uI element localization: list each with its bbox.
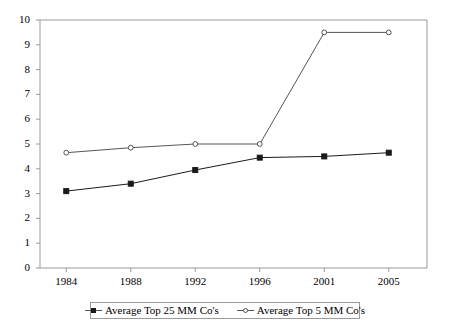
data-point-marker — [257, 142, 262, 147]
data-point-marker — [193, 142, 198, 147]
x-axis-tick-label: 1984 — [42, 276, 90, 287]
data-point-marker — [257, 155, 262, 160]
data-point-marker — [64, 150, 69, 155]
legend-marker-open-circle-icon — [237, 306, 254, 315]
y-axis-tick-label: 7 — [4, 88, 30, 99]
data-point-marker — [322, 30, 327, 35]
x-axis-tick-label: 1996 — [236, 276, 284, 287]
data-point-marker — [386, 150, 391, 155]
y-axis-tick-label: 0 — [4, 262, 30, 273]
data-point-marker — [322, 154, 327, 159]
legend-item-top-25: Average Top 25 MM Co's — [85, 305, 219, 316]
line-chart: 012345678910 198419881992199620012005 Av… — [0, 0, 451, 331]
x-axis-tick-label: 1992 — [171, 276, 219, 287]
y-axis-tick-label: 3 — [4, 188, 30, 199]
x-axis-tick-label: 1988 — [107, 276, 155, 287]
y-axis-tick-label: 5 — [4, 138, 30, 149]
y-axis-tick-label: 6 — [4, 113, 30, 124]
data-point-marker — [193, 168, 198, 173]
series-line-2 — [66, 32, 389, 152]
x-axis-tick-label: 2001 — [300, 276, 348, 287]
legend-item-top-5: Average Top 5 MM Co's — [237, 305, 365, 316]
y-axis-tick-label: 1 — [4, 237, 30, 248]
chart-legend: Average Top 25 MM Co's Average Top 5 MM … — [90, 302, 360, 319]
y-axis-tick-label: 2 — [4, 212, 30, 223]
legend-label-top-25: Average Top 25 MM Co's — [105, 305, 219, 316]
legend-label-top-5: Average Top 5 MM Co's — [257, 305, 365, 316]
y-axis-tick-label: 4 — [4, 163, 30, 174]
series-line-1 — [66, 153, 389, 191]
data-point-marker — [128, 181, 133, 186]
data-point-marker — [386, 30, 391, 35]
data-point-marker — [128, 145, 133, 150]
legend-marker-filled-square-icon — [85, 306, 102, 315]
data-point-marker — [64, 189, 69, 194]
y-axis-tick-label: 8 — [4, 64, 30, 75]
y-axis-tick-label: 10 — [4, 14, 30, 25]
x-axis-tick-label: 2005 — [365, 276, 413, 287]
y-axis-tick-label: 9 — [4, 39, 30, 50]
